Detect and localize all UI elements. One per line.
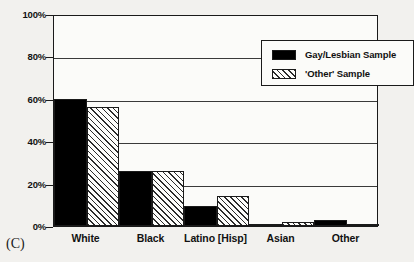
legend-label-gay-lesbian-sample: Gay/Lesbian Sample [305, 49, 396, 60]
y-axis-tick-mark [46, 227, 53, 228]
bar-latino-hisp-other-sample [217, 196, 250, 226]
y-axis-tick-label: 40% [2, 136, 46, 147]
figure-caption: (C) [6, 236, 25, 252]
bar-other-other-sample [347, 224, 380, 227]
y-axis-tick-mark [46, 185, 53, 186]
y-axis-tick-mark [46, 142, 53, 143]
y-axis-tick-label: 100% [2, 9, 46, 20]
bar-white-gay-lesbian-sample [54, 99, 87, 226]
y-axis-tick-label: 80% [2, 51, 46, 62]
legend-swatch-hatch [272, 69, 296, 79]
bar-white-other-sample [87, 107, 120, 226]
y-axis-tick-label: 0% [2, 221, 46, 232]
legend-label-other-sample: 'Other' Sample [305, 68, 370, 79]
y-axis-tick-label: 20% [2, 179, 46, 190]
legend-item-other-sample: 'Other' Sample [272, 65, 413, 82]
legend-swatch-solid [272, 50, 296, 60]
bar-asian-gay-lesbian-sample [249, 224, 282, 227]
bar-black-gay-lesbian-sample [119, 171, 152, 226]
y-axis-tick-mark [46, 15, 53, 16]
bar-black-other-sample [152, 171, 185, 226]
y-axis-tick-mark [46, 100, 53, 101]
y-axis-tick-label: 60% [2, 94, 46, 105]
x-axis-tick-label: Other [303, 232, 388, 244]
bar-other-gay-lesbian-sample [314, 220, 347, 226]
bar-latino-hisp-gay-lesbian-sample [184, 206, 217, 226]
gridline [54, 101, 377, 102]
legend: Gay/Lesbian Sample 'Other' Sample [261, 40, 414, 86]
bar-asian-other-sample [282, 222, 315, 226]
legend-item-gay-lesbian-sample: Gay/Lesbian Sample [272, 46, 413, 63]
plot-area: Gay/Lesbian Sample 'Other' Sample [53, 15, 378, 227]
y-axis-tick-mark [46, 57, 53, 58]
